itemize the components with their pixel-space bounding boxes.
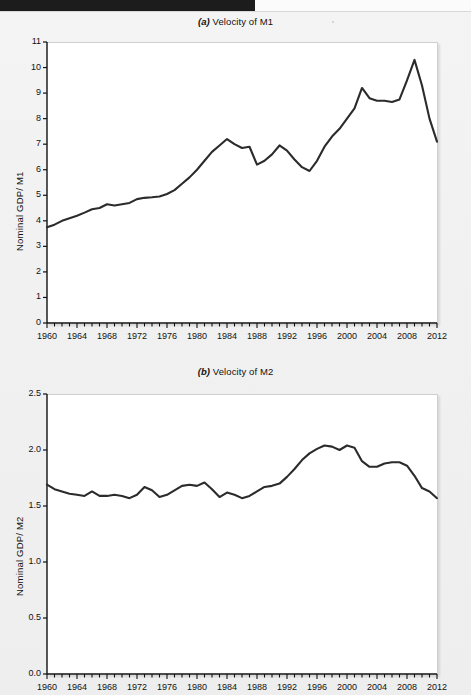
plot-area-wrapper-b: 0.00.51.01.52.02.51960196419681972197619… bbox=[47, 394, 437, 674]
y-tick-label: 1.0 bbox=[1, 556, 41, 566]
chart-panel-velocity-m1: (a) Velocity of M1 Nominal GDP/ M1 01234… bbox=[0, 16, 471, 366]
y-tick-label: 11 bbox=[1, 36, 41, 46]
series-line-a bbox=[47, 42, 437, 323]
y-tick-label: 6 bbox=[1, 164, 41, 174]
y-tick-label: 3 bbox=[1, 240, 41, 250]
chart-title-text-b: Velocity of M2 bbox=[213, 366, 274, 377]
x-tick-label: 2012 bbox=[417, 682, 457, 692]
y-tick-label: 7 bbox=[1, 138, 41, 148]
header-band bbox=[0, 0, 255, 11]
series-line-b bbox=[47, 394, 437, 674]
chart-panel-tag-b: (b) bbox=[198, 366, 210, 377]
y-tick-label: 5 bbox=[1, 189, 41, 199]
x-tick-label: 2012 bbox=[417, 331, 457, 341]
chart-panel-velocity-m2: (b) Velocity of M2 Nominal GDP/ M2 0.00.… bbox=[0, 366, 471, 695]
header-divider bbox=[0, 11, 471, 12]
y-tick-label: 0 bbox=[1, 317, 41, 327]
y-tick-label: 9 bbox=[1, 87, 41, 97]
chart-title-a: (a) Velocity of M1 bbox=[0, 16, 471, 27]
chart-title-text-a: Velocity of M1 bbox=[213, 16, 274, 27]
y-tick-label: 8 bbox=[1, 113, 41, 123]
y-tick-label: 0.5 bbox=[1, 612, 41, 622]
y-tick-label: 0.0 bbox=[1, 668, 41, 678]
chart-panel-tag-a: (a) bbox=[198, 16, 210, 27]
y-tick-label: 1 bbox=[1, 291, 41, 301]
y-tick-label: 2 bbox=[1, 266, 41, 276]
y-tick-label: 4 bbox=[1, 215, 41, 225]
y-tick-label: 10 bbox=[1, 62, 41, 72]
y-axis-label-a: Nominal GDP/ M1 bbox=[14, 171, 25, 251]
y-tick-label: 2.5 bbox=[1, 388, 41, 398]
chart-title-b: (b) Velocity of M2 bbox=[0, 366, 471, 377]
header-band-right bbox=[255, 0, 471, 11]
y-tick-label: 1.5 bbox=[1, 500, 41, 510]
y-tick-label: 2.0 bbox=[1, 444, 41, 454]
plot-area-wrapper-a: 0123456789101119601964196819721976198019… bbox=[47, 42, 437, 323]
